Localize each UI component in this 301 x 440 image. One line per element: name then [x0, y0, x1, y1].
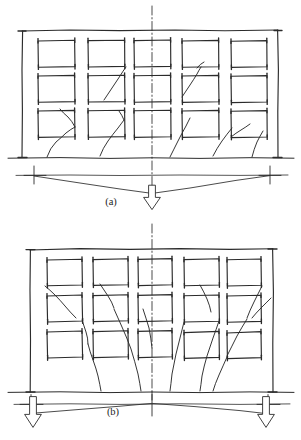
deflection-diagram-b: [14, 392, 290, 416]
opening-r3c3: [134, 108, 171, 140]
opening-b-r1c3: [138, 256, 172, 288]
crack-a-2: [60, 109, 75, 127]
opening-b-r1c5: [227, 257, 261, 289]
opening-b-r2c4: [184, 293, 219, 325]
crack-a-3: [100, 120, 124, 156]
opening-b-r1c2: [93, 256, 128, 287]
left-settlement-arrow: [25, 397, 42, 428]
crack-a-10: [182, 67, 201, 97]
crack-b-3: [88, 344, 101, 391]
figure-root: (a): [0, 0, 301, 440]
support-marker-a-left: [24, 166, 46, 184]
opening-r1c5: [231, 38, 267, 69]
opening-b-r2c2: [93, 292, 128, 323]
deflection-curve-b: [31, 403, 268, 413]
opening-b-r2c3: [138, 292, 172, 324]
panel-b: (b): [8, 224, 294, 427]
openings-b: [47, 256, 261, 361]
crack-a-6: [213, 128, 232, 156]
opening-b-r2c1: [47, 293, 83, 325]
crack-b-12: [143, 309, 152, 348]
panel-label-a: (a): [105, 196, 117, 208]
settlement-crack-diagram: (a): [0, 0, 301, 440]
wall-frame-a: [18, 30, 282, 158]
opening-r3c5: [231, 108, 267, 140]
opening-r1c1: [38, 38, 75, 70]
ground-line-b: [8, 392, 294, 393]
right-settlement-arrow: [258, 397, 275, 428]
crack-b-2: [82, 320, 88, 344]
panel-label-b: (b): [107, 406, 120, 418]
opening-b-r3c1: [47, 329, 83, 361]
crack-a-7: [252, 131, 263, 157]
centre-settlement-arrow: [144, 185, 161, 209]
opening-r2c1: [38, 73, 75, 104]
support-marker-a-right: [259, 166, 281, 184]
crack-b-9: [247, 286, 262, 318]
crack-b-6: [200, 285, 211, 312]
opening-r3c1: [38, 108, 75, 140]
opening-b-r1c4: [184, 256, 219, 288]
opening-r2c5: [231, 73, 267, 105]
ground-line-a: [8, 158, 294, 159]
opening-r1c2: [88, 38, 125, 69]
crack-a-9: [104, 67, 126, 100]
opening-b-r3c3: [138, 328, 172, 360]
crack-a-1: [47, 127, 75, 157]
crack-b-4: [100, 284, 114, 308]
opening-b-r3c2: [93, 328, 128, 359]
panel-a: (a): [8, 6, 294, 210]
crack-b-11: [213, 357, 227, 391]
crack-b-10: [227, 319, 247, 356]
crack-a-8: [231, 124, 250, 137]
wall-frame-b: [26, 249, 277, 392]
opening-r3c2: [88, 108, 125, 140]
deflection-reference-line-a: [16, 175, 288, 176]
crack-a-4: [119, 111, 124, 120]
cracks-b: [45, 284, 271, 391]
openings-a: [38, 38, 267, 140]
crack-b-1: [45, 286, 76, 318]
opening-b-r1c1: [47, 257, 82, 288]
